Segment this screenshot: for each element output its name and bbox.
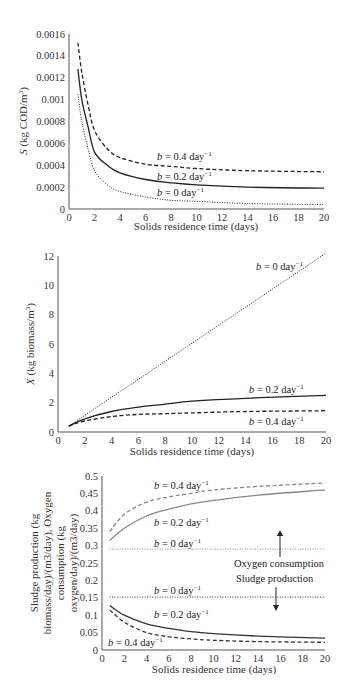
y-tick-label: 0 bbox=[93, 645, 98, 656]
svg-text:biomass/day)/(m3/day), Oxygen: biomass/day)/(m3/day), Oxygen bbox=[41, 491, 54, 634]
arrow-down-head-icon bbox=[273, 605, 279, 611]
y-tick-label: 0 bbox=[49, 427, 54, 438]
x-tick-label: 18 bbox=[293, 212, 304, 223]
chart-biomass-concentration: 024681012 02468101214161820 Solids resid… bbox=[24, 251, 331, 459]
y-axis-label: Sludge production (kg biomass/day)/(m3/d… bbox=[28, 491, 80, 634]
y-tick-label: 8 bbox=[49, 309, 54, 320]
y-tick-label: 0.1 bbox=[85, 610, 98, 621]
x-tick-label: 18 bbox=[294, 435, 305, 446]
y-tick-label: 0 bbox=[60, 204, 65, 215]
y-tick-label: 0.0004 bbox=[36, 160, 66, 171]
y-tick-label: 0.45 bbox=[80, 488, 98, 499]
x-tick-label: 20 bbox=[319, 212, 330, 223]
y-tick-label: 0.35 bbox=[80, 523, 98, 534]
x-axis-label: Solids residence time (days) bbox=[152, 663, 277, 676]
label-b-0.2: b = 0.2 day−1 bbox=[157, 170, 212, 182]
y-tick-label: 0.0006 bbox=[36, 138, 65, 149]
y-tick-label: 4 bbox=[49, 368, 55, 379]
x-tick-label: 20 bbox=[320, 653, 331, 664]
x-tick-label: 4 bbox=[109, 435, 115, 446]
y-tick-labels: 00.00020.00040.00060.00080.0010.00120.00… bbox=[36, 29, 66, 215]
y-tick-label: 0.25 bbox=[80, 558, 98, 569]
y-tick-label: 6 bbox=[49, 339, 54, 350]
y-tick-label: 0.0002 bbox=[36, 182, 65, 193]
label-oxygen-b-0.2: b = 0.2 day−1 bbox=[154, 516, 209, 528]
y-axis-label: S (kg COD/m3) bbox=[17, 87, 30, 155]
y-tick-labels: 024681012 bbox=[44, 251, 55, 438]
y-tick-label: 2 bbox=[49, 397, 54, 408]
y-tick-label: 0.15 bbox=[80, 592, 98, 603]
x-tick-label: 4 bbox=[144, 653, 150, 664]
x-axis-label: Solids residence time (days) bbox=[134, 220, 259, 233]
x-tick-label: 20 bbox=[321, 435, 332, 446]
y-tick-label: 10 bbox=[44, 280, 55, 291]
label-b-0.2: b = 0.2 day−1 bbox=[249, 383, 304, 395]
x-tick-label: 4 bbox=[117, 212, 123, 223]
y-tick-label: 0.0012 bbox=[36, 72, 65, 83]
arrow-up-head-icon bbox=[277, 530, 283, 536]
label-sludge-b-0.4: b = 0.4 day−1 bbox=[108, 636, 163, 648]
x-tick-label: 2 bbox=[122, 653, 127, 664]
chart-sludge-oxygen: 00.050.10.150.20.250.30.350.40.450.5 024… bbox=[28, 471, 330, 677]
label-sludge-b-0: b = 0 day−1 bbox=[154, 584, 201, 596]
y-tick-label: 0.0008 bbox=[36, 116, 65, 127]
x-tick-label: 2 bbox=[92, 212, 97, 223]
y-tick-label: 0.4 bbox=[85, 505, 99, 516]
curve-solid bbox=[110, 606, 325, 639]
annotation-sludge-production: Sludge production bbox=[236, 573, 314, 584]
x-tick-label: 0 bbox=[99, 653, 104, 664]
y-tick-label: 0.05 bbox=[80, 627, 98, 638]
y-tick-label: 0.2 bbox=[85, 575, 98, 586]
curve-solid bbox=[110, 490, 325, 541]
x-tick-label: 0 bbox=[55, 435, 60, 446]
y-tick-label: 12 bbox=[44, 251, 55, 262]
figure-canvas: 00.00020.00040.00060.00080.0010.00120.00… bbox=[0, 0, 347, 695]
chart-substrate-concentration: 00.00020.00040.00060.00080.0010.00120.00… bbox=[17, 29, 329, 234]
y-tick-label: 0.0016 bbox=[36, 29, 65, 40]
curve-dotted bbox=[69, 253, 326, 426]
x-tick-label: 16 bbox=[275, 653, 286, 664]
y-tick-label: 0.0014 bbox=[36, 50, 66, 61]
x-tick-label: 0 bbox=[66, 212, 71, 223]
label-b-0.4: b = 0.4 day−1 bbox=[157, 150, 212, 162]
svg-text:consumption (kg: consumption (kg bbox=[54, 525, 67, 600]
svg-text:oxygen/day)/(m3/day): oxygen/day)/(m3/day) bbox=[67, 513, 80, 612]
x-tick-label: 16 bbox=[267, 435, 278, 446]
curves bbox=[69, 253, 326, 426]
label-oxygen-b-0: b = 0 day−1 bbox=[154, 537, 201, 549]
y-axis-label: X (kg biomass/m3) bbox=[24, 303, 37, 386]
x-tick-label: 16 bbox=[268, 212, 279, 223]
y-tick-label: 0.001 bbox=[41, 94, 65, 105]
annotation-oxygen-consumption: Oxygen consumption bbox=[234, 558, 325, 569]
label-b-0.4: b = 0.4 day−1 bbox=[249, 415, 304, 427]
y-tick-labels: 00.050.10.150.20.250.30.350.40.450.5 bbox=[80, 471, 99, 656]
y-tick-label: 0.5 bbox=[85, 471, 98, 482]
x-tick-label: 18 bbox=[297, 653, 308, 664]
x-tick-label: 2 bbox=[82, 435, 87, 446]
label-oxygen-b-0.4: b = 0.4 day−1 bbox=[154, 479, 209, 491]
label-b-0: b = 0 day−1 bbox=[157, 186, 204, 198]
label-sludge-b-0.2: b = 0.2 day−1 bbox=[154, 608, 209, 620]
curve-dashed bbox=[110, 483, 325, 532]
svg-text:Sludge production (kg: Sludge production (kg bbox=[28, 513, 41, 612]
y-tick-label: 0.3 bbox=[85, 540, 98, 551]
x-axis-label: Solids residence time (days) bbox=[130, 445, 255, 458]
label-b-0: b = 0 day−1 bbox=[256, 260, 303, 272]
